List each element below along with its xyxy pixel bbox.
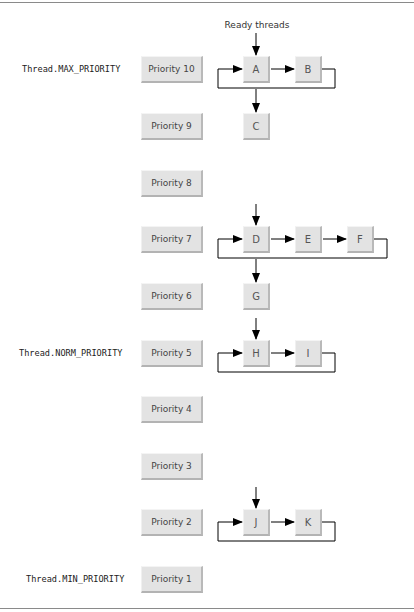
priority-9-box: Priority 9	[141, 113, 203, 140]
priority-1-box: Priority 1	[141, 566, 203, 593]
priority-6-box: Priority 6	[141, 283, 203, 310]
min-priority-label: Thread.MIN_PRIORITY	[26, 572, 138, 586]
norm-priority-label: Thread.NORM_PRIORITY	[19, 346, 131, 360]
thread-i-box: I	[295, 340, 322, 367]
thread-c-box: C	[243, 113, 270, 140]
priority-8-box: Priority 8	[141, 170, 203, 197]
thread-e-box: E	[295, 226, 322, 253]
thread-g-box: G	[243, 283, 270, 310]
thread-j-box: J	[243, 509, 270, 536]
priority-5-box: Priority 5	[141, 340, 203, 367]
connector-lines	[0, 0, 414, 612]
ready-threads-label: Ready threads	[222, 20, 292, 30]
thread-h-box: H	[243, 340, 270, 367]
max-priority-label: Thread.MAX_PRIORITY	[22, 62, 134, 76]
priority-7-box: Priority 7	[141, 226, 203, 253]
thread-b-box: B	[295, 56, 322, 83]
thread-f-box: F	[347, 226, 374, 253]
thread-k-box: K	[295, 509, 322, 536]
thread-a-box: A	[243, 56, 270, 83]
priority-3-box: Priority 3	[141, 453, 203, 480]
priority-10-box: Priority 10	[141, 56, 203, 83]
priority-2-box: Priority 2	[141, 509, 203, 536]
priority-4-box: Priority 4	[141, 396, 203, 423]
thread-d-box: D	[243, 226, 270, 253]
